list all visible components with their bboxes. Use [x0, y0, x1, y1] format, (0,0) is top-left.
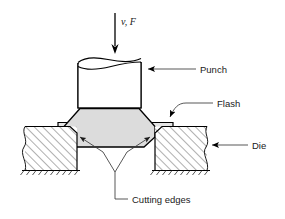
force-arrow: v, F: [111, 13, 136, 54]
punch: [78, 58, 141, 108]
force-label: v, F: [121, 16, 137, 27]
punch-label: Punch: [200, 64, 227, 75]
die-callout: Die: [212, 140, 266, 151]
diagram-canvas: v, F: [0, 0, 285, 219]
cutting-edges-label: Cutting edges: [132, 194, 191, 205]
flash-label: Flash: [217, 98, 240, 109]
die-label: Die: [252, 140, 266, 151]
flash-callout: Flash: [170, 98, 240, 118]
forging-diagram: v, F: [0, 0, 285, 219]
workpiece: [64, 109, 155, 148]
punch-callout: Punch: [148, 64, 227, 75]
ground-left: [21, 171, 81, 176]
ground-right: [151, 171, 211, 176]
